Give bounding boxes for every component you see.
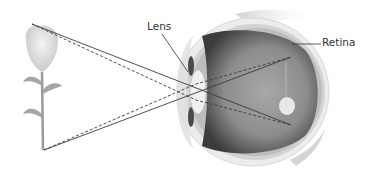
optic-disc — [279, 97, 295, 115]
eye-diagram — [0, 0, 371, 174]
flower-leaf-lower-left — [23, 109, 42, 118]
retina-label: Retina — [322, 36, 355, 48]
iris-upper — [188, 56, 194, 76]
flower-object — [23, 26, 62, 150]
flower-leaf-upper-right — [43, 83, 62, 94]
vitreous-body — [202, 30, 318, 153]
eyeball — [176, 18, 329, 166]
flower-stem — [42, 72, 43, 150]
flower-leaf-upper-left — [23, 77, 42, 86]
lens-label: Lens — [147, 20, 171, 32]
